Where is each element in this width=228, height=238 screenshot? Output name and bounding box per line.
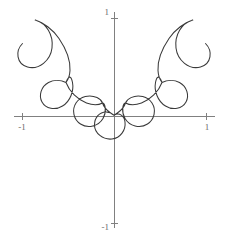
x-tick-label-pos-one: 1 [205, 122, 210, 132]
plot-figure: -1 1 1 -1 [0, 0, 228, 238]
plot-canvas: -1 1 1 -1 [0, 0, 228, 238]
y-tick-label-neg-one: -1 [102, 222, 110, 232]
x-tick-label-neg-one: -1 [18, 122, 26, 132]
y-tick-label-pos-one: 1 [105, 7, 110, 17]
